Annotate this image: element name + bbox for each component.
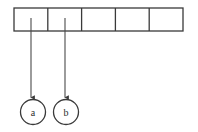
node-a[interactable]: a	[21, 100, 46, 125]
node-b[interactable]: b	[54, 100, 79, 125]
array-cell-2[interactable]	[82, 8, 116, 31]
diagram-canvas: a b	[0, 0, 198, 132]
node-b-label: b	[64, 107, 69, 118]
array-cell-3[interactable]	[115, 8, 149, 31]
array-cell-4[interactable]	[149, 8, 183, 31]
node-a-label: a	[31, 107, 36, 118]
slot-array	[14, 8, 183, 31]
array-pointer-diagram: a b	[0, 0, 198, 132]
